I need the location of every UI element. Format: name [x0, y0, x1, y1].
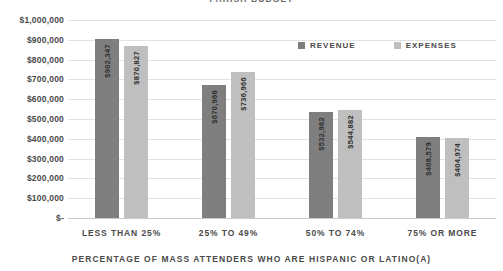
gridline — [68, 218, 496, 219]
bar-value-label: $544,882 — [346, 115, 355, 149]
legend-item[interactable]: EXPENSES — [394, 41, 457, 50]
chart-title: PARISH BUDGET — [0, 0, 503, 4]
y-axis-tick-label: $300,000 — [0, 154, 64, 164]
legend-label: REVENUE — [310, 41, 356, 50]
y-axis-tick-label: $- — [0, 213, 64, 223]
bar-expenses: $544,882 — [338, 110, 362, 218]
x-axis-category-label: 50% TO 74% — [282, 228, 389, 238]
y-axis-tick-label: $700,000 — [0, 74, 64, 84]
bar-value-label: $670,968 — [210, 90, 219, 124]
bar-revenue: $532,982 — [309, 112, 333, 218]
y-axis-tick-label: $600,000 — [0, 94, 64, 104]
bar-value-label: $532,982 — [317, 117, 326, 151]
bar-revenue: $408,579 — [416, 137, 440, 218]
y-axis-tick-label: $400,000 — [0, 134, 64, 144]
bar-value-label: $736,966 — [239, 77, 248, 111]
x-axis-title: PERCENTAGE OF MASS ATTENDERS WHO ARE HIS… — [0, 254, 503, 264]
bar-value-label: $408,579 — [424, 142, 433, 176]
legend-item[interactable]: REVENUE — [298, 41, 356, 50]
bar-revenue: $670,968 — [202, 85, 226, 218]
y-axis-tick-label: $200,000 — [0, 173, 64, 183]
x-axis-category-label: LESS THAN 25% — [68, 228, 175, 238]
bar-revenue: $902,347 — [95, 39, 119, 218]
y-axis-tick-label: $800,000 — [0, 55, 64, 65]
y-axis-tick-label: $900,000 — [0, 35, 64, 45]
chart-legend: REVENUEEXPENSES — [298, 41, 457, 50]
bar-value-label: $870,827 — [132, 51, 141, 85]
bar-expenses: $870,827 — [124, 46, 148, 218]
bar-chart: PARISH BUDGET $1,000,000$900,000$800,000… — [0, 0, 503, 271]
y-axis-tick-label: $1,000,000 — [0, 15, 64, 25]
y-axis-tick-label: $500,000 — [0, 114, 64, 124]
bar-expenses: $736,966 — [231, 72, 255, 218]
legend-swatch-icon — [394, 42, 401, 49]
legend-label: EXPENSES — [406, 41, 457, 50]
x-axis-category-label: 75% OR MORE — [389, 228, 496, 238]
x-axis-category-label: 25% TO 49% — [175, 228, 282, 238]
y-axis: $1,000,000$900,000$800,000$700,000$600,0… — [0, 20, 64, 218]
bar-value-label: $404,974 — [453, 143, 462, 177]
bar-group: $902,347$870,827 — [95, 20, 148, 218]
bar-value-label: $902,347 — [103, 44, 112, 78]
bar-expenses: $404,974 — [445, 138, 469, 218]
bar-group: $670,968$736,966 — [202, 20, 255, 218]
legend-swatch-icon — [298, 42, 305, 49]
y-axis-tick-label: $100,000 — [0, 193, 64, 203]
